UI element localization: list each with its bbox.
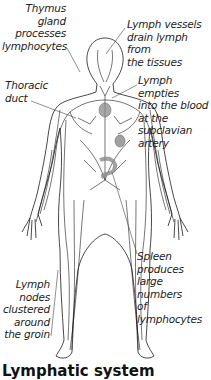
label-line: drain lymph from [127, 31, 211, 56]
label-line: Lymph empties [138, 74, 211, 99]
label-line: around [2, 316, 50, 329]
label-line: subclavian [138, 124, 211, 137]
label-thymus: Thymus gland processes lymphocytes [2, 2, 66, 52]
label-line: Spleen [137, 250, 211, 263]
label-line: nodes [2, 291, 50, 304]
label-lymph-empties: Lymph empties into the blood at the subc… [138, 74, 211, 149]
label-line: Lymph vessels [127, 18, 211, 31]
label-line: into the blood [138, 99, 211, 112]
label-line: Thoracic [5, 79, 55, 92]
label-line: the groin [2, 328, 50, 341]
label-line: the tissues [127, 56, 211, 69]
label-line: lymphocytes [2, 40, 66, 53]
diagram-title: Lymphatic system [2, 362, 155, 380]
label-line: produces large [137, 263, 211, 288]
label-line: clustered [2, 303, 50, 316]
label-line: gland [2, 15, 66, 28]
label-line: of lymphocytes [137, 300, 211, 325]
organs [99, 103, 125, 178]
label-thoracic-duct: Thoracic duct [5, 79, 55, 104]
label-line: Lymph [2, 278, 50, 291]
label-line: Thymus [2, 2, 66, 15]
spleen-organ [115, 135, 125, 147]
label-lymph-nodes: Lymph nodes clustered around the groin [2, 278, 50, 341]
label-spleen: Spleen produces large numbers of lymphoc… [137, 250, 211, 325]
thymus-organ [99, 103, 111, 117]
label-line: processes [2, 27, 66, 40]
label-line: numbers [137, 288, 211, 301]
label-line: at the [138, 112, 211, 125]
label-line: duct [5, 92, 55, 105]
label-line: artery [138, 137, 211, 150]
label-lymph-vessels: Lymph vessels drain lymph from the tissu… [127, 18, 211, 68]
